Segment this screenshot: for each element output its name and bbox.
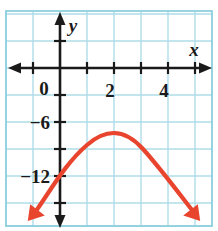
graph-figure: 0 2 4 −6 −12 y x <box>0 0 218 231</box>
origin-label: 0 <box>39 78 49 99</box>
x-tick-label-2: 2 <box>105 80 115 101</box>
y-tick-label-neg6: −6 <box>30 112 50 133</box>
x-axis-title: x <box>188 39 199 60</box>
y-axis-title: y <box>67 15 78 36</box>
x-tick-label-4: 4 <box>159 80 169 101</box>
y-tick-label-neg12: −12 <box>20 166 50 187</box>
coordinate-plane-svg: 0 2 4 −6 −12 y x <box>0 0 218 231</box>
